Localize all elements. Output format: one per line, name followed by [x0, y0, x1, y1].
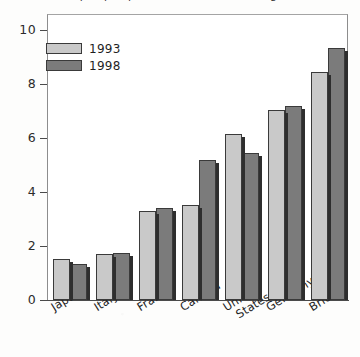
- y-axis-tick-label: 4: [28, 186, 40, 199]
- bar-body: [96, 254, 113, 300]
- bar-body: [311, 72, 328, 300]
- legend-swatch-1993: [46, 43, 82, 54]
- bar-canada-1993: [182, 205, 199, 300]
- bar-group: [225, 14, 259, 301]
- bar-japan-1993: [53, 259, 70, 300]
- bar-group: [182, 14, 216, 301]
- y-axis-tick-mark: [40, 192, 47, 193]
- y-axis-tick-mark: [40, 300, 47, 301]
- page-title: Output per person in manufacturing: [58, 0, 277, 2]
- bar-body: [53, 259, 70, 300]
- legend-label-1993: 1993: [89, 42, 121, 56]
- bar-group: [268, 14, 302, 301]
- bar-chart: Output per person in manufacturing 02468…: [0, 0, 360, 357]
- y-axis-tick-label: 6: [28, 132, 40, 145]
- y-axis-tick-label: 2: [28, 240, 40, 253]
- bar-united-states-1993: [225, 134, 242, 300]
- bar-france-1993: [139, 211, 156, 300]
- y-axis-tick-mark: [40, 246, 47, 247]
- legend-label-1998: 1998: [89, 59, 121, 73]
- bar-germany-1993: [268, 110, 285, 300]
- legend-item-1998: 1998: [46, 58, 156, 73]
- y-axis-tick-mark: [40, 84, 47, 85]
- bar-britain-1993: [311, 72, 328, 300]
- chart-title-cropped: Output per person in manufacturing: [0, 0, 360, 11]
- bar-body: [225, 134, 242, 300]
- legend-swatch-1998: [46, 60, 82, 71]
- bar-body: [182, 205, 199, 300]
- y-axis-tick-label: 0: [28, 294, 40, 307]
- legend-item-1993: 1993: [46, 41, 156, 56]
- y-axis-tick-label: 8: [28, 78, 40, 91]
- legend: 1993 1998: [46, 41, 156, 75]
- y-axis-tick-mark: [40, 138, 47, 139]
- bar-body: [268, 110, 285, 300]
- bar-group: [311, 14, 345, 301]
- y-axis-tick-label: 10: [19, 24, 40, 37]
- bar-body: [139, 211, 156, 300]
- y-axis: 0246810: [0, 14, 47, 301]
- y-axis-tick-mark: [40, 30, 47, 31]
- bar-italy-1993: [96, 254, 113, 300]
- x-axis-labels: JapanItalyFranceCanadaUnitedStatesGerman…: [47, 301, 348, 357]
